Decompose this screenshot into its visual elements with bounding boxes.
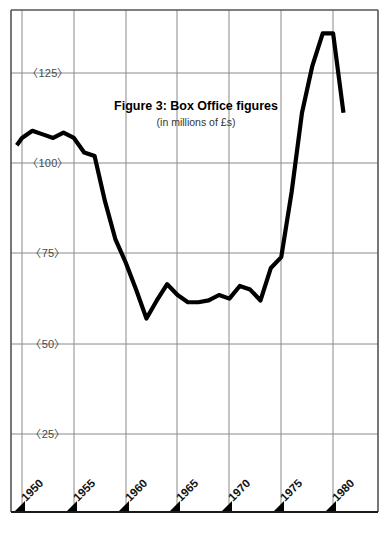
y-tick-label-50: 〈50〉 — [30, 338, 65, 350]
plot-background — [11, 10, 378, 512]
line-chart: 〈125〉 〈100〉 〈75〉 〈50〉 〈25〉 1950 1955 196… — [0, 0, 391, 533]
y-tick-label-75: 〈75〉 — [30, 247, 65, 259]
chart-title: Figure 3: Box Office figures — [114, 99, 278, 113]
y-tick-label-125: 〈125〉 — [27, 67, 68, 79]
y-tick-label-25: 〈25〉 — [30, 428, 65, 440]
y-tick-label-100: 〈100〉 — [27, 157, 68, 169]
figure-container: 〈125〉 〈100〉 〈75〉 〈50〉 〈25〉 1950 1955 196… — [0, 0, 391, 533]
chart-subtitle: (in millions of £s) — [157, 116, 236, 128]
